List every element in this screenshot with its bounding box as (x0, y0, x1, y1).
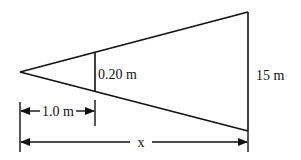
large-distance-label: x (138, 135, 145, 150)
large-height-label: 15 m (256, 68, 285, 83)
similar-triangles-diagram: 0.20 m 15 m 1.0 m x (0, 0, 301, 160)
upper-edge-line (20, 12, 248, 72)
small-height-label: 0.20 m (98, 67, 137, 82)
small-distance-label: 1.0 m (42, 104, 74, 119)
